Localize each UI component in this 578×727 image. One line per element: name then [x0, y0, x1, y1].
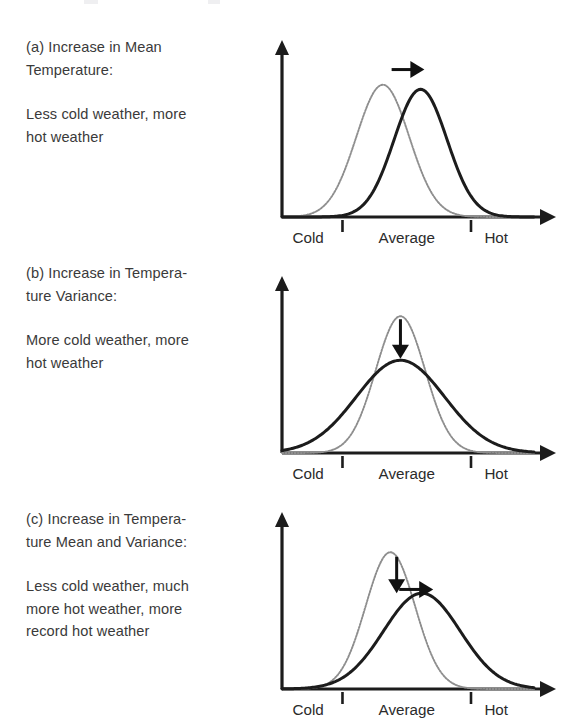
panel-c-caption-title: (c) Increase in Tempera- ture Mean and V… — [26, 508, 254, 553]
panel-a-caption-body: Less cold weather, more hot weather — [26, 103, 254, 148]
previous-climate-curve — [282, 316, 534, 453]
panel-b-caption-body: More cold weather, more hot weather — [26, 329, 254, 374]
panel-b-caption-title: (b) Increase in Tempera- ture Variance: — [26, 262, 254, 307]
y-axis-arrowhead — [275, 276, 289, 291]
panel-b-caption: (b) Increase in Tempera- ture Variance: … — [26, 262, 254, 374]
new-climate-curve — [282, 593, 534, 689]
x-axis-arrowhead — [540, 681, 556, 697]
panel-b-chart: ColdAverageHot — [268, 258, 568, 490]
x-axis-arrowhead — [540, 209, 556, 225]
panel-c-caption-body: Less cold weather, much more hot weather… — [26, 575, 254, 643]
x-label-hot: Hot — [484, 229, 508, 246]
new-climate-curve — [282, 89, 534, 217]
x-label-cold: Cold — [293, 701, 324, 718]
scan-artifact — [84, 0, 98, 4]
panel-a-chart: ColdAverageHot — [268, 22, 568, 254]
x-label-hot: Hot — [484, 465, 508, 482]
annotation-arrowhead-right — [410, 61, 424, 78]
x-label-hot: Hot — [484, 701, 508, 718]
panel-c-caption: (c) Increase in Tempera- ture Mean and V… — [26, 508, 254, 643]
annotation-arrowhead-down — [388, 579, 405, 593]
x-label-cold: Cold — [293, 229, 324, 246]
scan-artifact — [208, 0, 220, 4]
previous-climate-curve — [282, 552, 534, 689]
x-label-average: Average — [379, 465, 435, 482]
panel-a-caption-title: (a) Increase in Mean Temperature: — [26, 36, 254, 81]
x-axis-arrowhead — [540, 445, 556, 461]
panel-a-svg: ColdAverageHot — [268, 22, 568, 254]
annotation-arrowhead-down — [392, 345, 409, 359]
x-label-average: Average — [379, 701, 435, 718]
x-label-cold: Cold — [293, 465, 324, 482]
climate-distribution-figure: (a) Increase in Mean Temperature: Less c… — [0, 0, 578, 727]
panel-c-chart: ColdAverageHot — [268, 494, 568, 726]
y-axis-arrowhead — [275, 512, 289, 527]
panel-c-svg: ColdAverageHot — [268, 494, 568, 726]
x-label-average: Average — [379, 229, 435, 246]
new-climate-curve — [282, 360, 534, 452]
panel-a-caption: (a) Increase in Mean Temperature: Less c… — [26, 36, 254, 148]
y-axis-arrowhead — [275, 40, 289, 55]
panel-b-svg: ColdAverageHot — [268, 258, 568, 490]
